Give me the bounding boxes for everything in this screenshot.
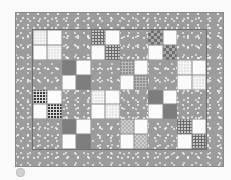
quilt-image (15, 12, 224, 167)
quilt-block-four-patch (120, 60, 149, 90)
patch-white (148, 45, 162, 60)
patch-white (192, 60, 206, 75)
patch-white (33, 45, 47, 60)
patch-print (47, 104, 61, 119)
quilt-block-solid (148, 119, 177, 149)
patch-white (134, 119, 148, 134)
patch-white (105, 90, 119, 105)
patch-white (47, 90, 61, 105)
patch-print (105, 45, 119, 60)
patch-print (33, 30, 47, 45)
quilt-block-four-patch (91, 90, 120, 120)
quilt-block-four-patch (148, 90, 177, 120)
patch-white (177, 75, 191, 90)
patch-print (148, 30, 162, 45)
patch-white (177, 134, 191, 149)
patch-print (192, 75, 206, 90)
quilt-center-panel (32, 29, 207, 150)
patch-print (62, 119, 76, 134)
circle-dot-icon (16, 168, 25, 177)
quilt-block-solid (33, 60, 62, 90)
quilt-block-four-patch (33, 30, 62, 60)
quilt-block-solid (91, 60, 120, 90)
quilt-block-four-patch (177, 119, 206, 149)
patch-print (120, 60, 134, 75)
patch-white (105, 30, 119, 45)
quilt-block-solid (148, 60, 177, 90)
patch-white (76, 119, 90, 134)
quilt-block-four-patch (62, 60, 91, 90)
patch-white (91, 104, 105, 119)
patch-white (134, 60, 148, 75)
patch-print (148, 90, 162, 105)
quilt-block-four-patch (148, 30, 177, 60)
patch-print (76, 75, 90, 90)
quilt-block-four-patch (177, 60, 206, 90)
patch-print (91, 90, 105, 105)
patch-white (120, 75, 134, 90)
quilt-block-four-patch (33, 90, 62, 120)
patch-white (76, 60, 90, 75)
patch-white (91, 45, 105, 60)
patch-white (33, 104, 47, 119)
patch-print (33, 90, 47, 105)
patch-white (163, 90, 177, 105)
quilt-block-solid (62, 30, 91, 60)
patch-print (91, 30, 105, 45)
patch-white (163, 30, 177, 45)
quilt-block-grid (33, 30, 206, 149)
patch-print (47, 45, 61, 60)
quilt-block-four-patch (62, 119, 91, 149)
patch-print (134, 134, 148, 149)
patch-white (192, 119, 206, 134)
patch-white (47, 30, 61, 45)
quilt-block-solid (91, 119, 120, 149)
patch-print (105, 104, 119, 119)
patch-print (163, 45, 177, 60)
quilt-block-solid (33, 119, 62, 149)
patch-print (163, 104, 177, 119)
patch-white (120, 134, 134, 149)
quilt-block-solid (177, 90, 206, 120)
quilt-block-four-patch (120, 119, 149, 149)
patch-print (62, 60, 76, 75)
patch-print (177, 119, 191, 134)
patch-print (192, 134, 206, 149)
quilt-block-solid (62, 90, 91, 120)
patch-print (76, 134, 90, 149)
quilt-block-solid (120, 30, 149, 60)
patch-white (148, 104, 162, 119)
patch-print (134, 75, 148, 90)
quilt-block-solid (177, 30, 206, 60)
quilt-block-four-patch (91, 30, 120, 60)
patch-print (177, 60, 191, 75)
patch-white (62, 134, 76, 149)
patch-white (62, 75, 76, 90)
quilt-block-solid (120, 90, 149, 120)
patch-print (120, 119, 134, 134)
